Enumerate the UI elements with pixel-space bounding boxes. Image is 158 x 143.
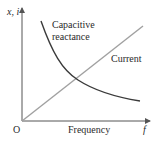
origin-label: O (13, 125, 20, 135)
capacitive-reactance-label-line1: Capacitive (52, 19, 95, 31)
current-label: Current (111, 54, 142, 64)
capacitive-reactance-label-line2: reactance (52, 31, 95, 43)
x-axis-symbol: f (143, 125, 146, 135)
x-axis-label: Frequency (68, 125, 110, 135)
capacitive-reactance-label: Capacitive reactance (52, 19, 95, 43)
reactance-current-diagram: x, i O Frequency f Capacitive reactance … (0, 0, 158, 143)
y-axis-label: x, i (7, 7, 19, 17)
